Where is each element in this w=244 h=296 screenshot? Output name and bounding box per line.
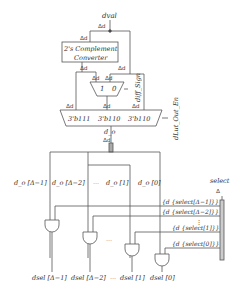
svg-text:Δd: Δd xyxy=(92,75,99,81)
svg-text:{d {select[1]}}: {d {select[1]}} xyxy=(172,224,220,231)
svg-text:3'b111: 3'b111 xyxy=(68,115,91,123)
svg-text:Δd: Δd xyxy=(105,75,112,81)
svg-text:dsel [Δ−2]: dsel [Δ−2] xyxy=(71,274,106,282)
svg-text:3'b110: 3'b110 xyxy=(128,115,151,123)
svg-text:···: ··· xyxy=(106,237,112,243)
svg-text:{d {select[0]}}: {d {select[0]}} xyxy=(172,240,220,247)
dval-label: dval xyxy=(102,12,117,20)
svg-text:dsel [1]: dsel [1] xyxy=(120,274,145,282)
svg-text:{d {select[Δ−2]}}: {d {select[Δ−2]}} xyxy=(162,208,219,215)
svg-text:Δd: Δd xyxy=(132,103,139,109)
svg-text:dsel [0]: dsel [0] xyxy=(150,274,175,282)
svg-text:···: ··· xyxy=(110,275,116,281)
svg-text:{d {select[Δ−1]}}: {d {select[Δ−1]}} xyxy=(162,198,219,205)
dlut-out-en-label: dLut_Out_En xyxy=(172,97,180,140)
svg-text:d_o [1]: d_o [1] xyxy=(106,179,129,187)
svg-text:Δd: Δd xyxy=(80,65,87,71)
diff-sign-label: diff_Sign xyxy=(134,73,142,102)
svg-text:d_o [0]: d_o [0] xyxy=(138,179,161,187)
svg-text:d_o [Δ−1]: d_o [Δ−1] xyxy=(14,179,47,187)
circuit-diagram: dval Δd Δd 2's Complement Converter Δd Δ… xyxy=(0,0,244,296)
svg-text:3'b110: 3'b110 xyxy=(98,115,121,123)
converter-label-1: 2's Complement xyxy=(63,45,118,53)
svg-text:Δd: Δd xyxy=(66,103,73,109)
d-o-label: d_o xyxy=(104,128,115,136)
svg-text:1: 1 xyxy=(100,85,104,93)
svg-text:Δd: Δd xyxy=(98,23,105,29)
converter-label-2: Converter xyxy=(74,54,108,62)
svg-text:Δd: Δd xyxy=(103,103,110,109)
svg-text:dsel [Δ−1]: dsel [Δ−1] xyxy=(32,274,67,282)
svg-text:···: ··· xyxy=(93,180,99,186)
select-label: select xyxy=(210,177,230,185)
svg-text:0: 0 xyxy=(112,85,117,93)
svg-text:Δd: Δd xyxy=(80,35,87,41)
svg-text:Δ: Δ xyxy=(216,188,220,194)
svg-text:d_o [Δ−2]: d_o [Δ−2] xyxy=(52,179,85,187)
labels: dval Δd Δd 2's Complement Converter Δd Δ… xyxy=(14,12,230,282)
svg-text:Δd: Δd xyxy=(118,65,125,71)
svg-text:Δd: Δd xyxy=(103,137,110,143)
